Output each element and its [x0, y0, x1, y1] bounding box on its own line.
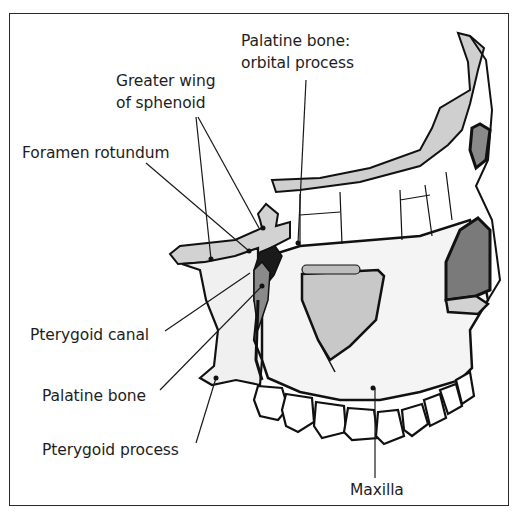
label-palatine-orbital-1: Palatine bone:: [241, 31, 350, 51]
label-maxilla: Maxilla: [350, 480, 404, 500]
label-greater-wing-2: of sphenoid: [116, 93, 206, 113]
label-greater-wing-1: Greater wing: [116, 71, 215, 91]
label-palatine-orbital-2: orbital process: [241, 53, 354, 73]
label-pterygoid-canal: Pterygoid canal: [30, 325, 149, 345]
pterygoid-process: [182, 248, 262, 385]
label-pterygoid-process: Pterygoid process: [42, 440, 179, 460]
maxilla-diagram: [0, 0, 520, 516]
label-palatine-bone: Palatine bone: [42, 386, 146, 406]
label-foramen-rotundum: Foramen rotundum: [22, 143, 170, 163]
